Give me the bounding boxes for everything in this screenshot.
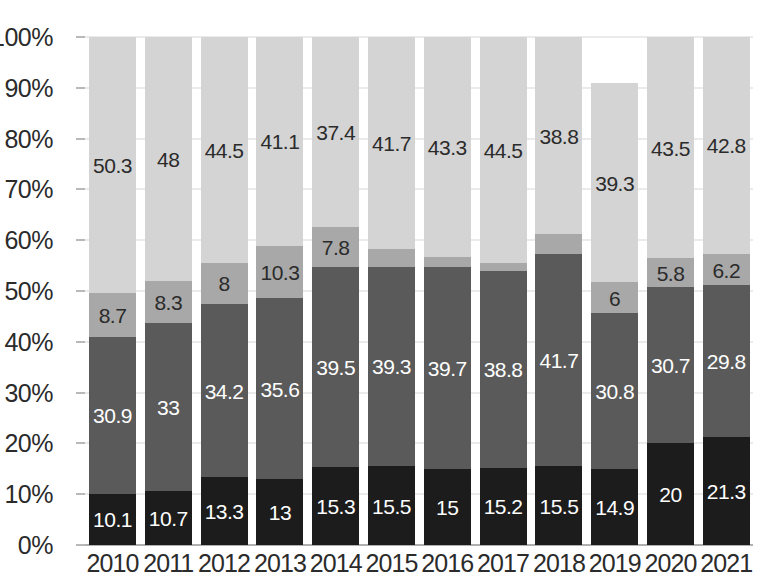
bar-value-label: 29.8 [703, 351, 750, 372]
bar-2015[interactable]: 15.539.33.541.7 [368, 37, 415, 545]
bar-value-label: 33 [145, 396, 192, 417]
bar-2018[interactable]: 15.541.7438.8 [535, 37, 582, 545]
bar-value-label: 14.9 [591, 497, 638, 518]
bar-segment-segment-4-2018[interactable]: 38.8 [535, 37, 582, 234]
bar-value-label: 41.7 [368, 132, 415, 153]
bar-segment-segment-3-2017[interactable]: 1.5 [480, 263, 527, 271]
bar-value-label: 10.3 [256, 261, 303, 282]
bar-value-label: 8.3 [145, 291, 192, 312]
bar-2012[interactable]: 13.334.2844.5 [201, 37, 248, 545]
bar-segment-segment-1-2017[interactable]: 15.2 [480, 468, 527, 545]
bar-segment-segment-4-2013[interactable]: 41.1 [256, 37, 303, 246]
bar-segment-segment-1-2012[interactable]: 13.3 [201, 477, 248, 545]
bar-value-label: 38.8 [480, 359, 527, 380]
bar-segment-segment-4-2012[interactable]: 44.5 [201, 37, 248, 263]
x-axis-label-2021: 2021 [696, 549, 756, 578]
bar-segment-segment-2-2010[interactable]: 30.9 [89, 337, 136, 494]
bar-segment-segment-1-2014[interactable]: 15.3 [312, 467, 359, 545]
bar-segment-segment-2-2014[interactable]: 39.5 [312, 267, 359, 468]
bar-segment-segment-3-2016[interactable]: 2 [424, 257, 471, 267]
bar-segment-segment-3-2013[interactable]: 10.3 [256, 246, 303, 298]
bar-2017[interactable]: 15.238.81.544.5 [480, 37, 527, 545]
bar-segment-segment-4-2021[interactable]: 42.8 [703, 37, 750, 254]
bar-segment-segment-1-2011[interactable]: 10.7 [145, 491, 192, 545]
bar-value-label: 39.3 [591, 172, 638, 193]
y-axis-tick-mark [76, 392, 85, 394]
bar-segment-segment-4-2014[interactable]: 37.4 [312, 37, 359, 227]
bar-segment-segment-3-2015[interactable]: 3.5 [368, 249, 415, 267]
bar-value-label: 15 [424, 496, 471, 517]
bar-segment-segment-2-2017[interactable]: 38.8 [480, 271, 527, 468]
bar-segment-segment-1-2015[interactable]: 15.5 [368, 466, 415, 545]
bar-2019[interactable]: 14.930.8639.3 [591, 37, 638, 545]
bar-2020[interactable]: 2030.75.843.5 [647, 37, 694, 545]
bar-segment-segment-2-2019[interactable]: 30.8 [591, 313, 638, 469]
bar-value-label: 41.1 [256, 131, 303, 152]
bar-segment-segment-2-2013[interactable]: 35.6 [256, 298, 303, 479]
bar-segment-segment-2-2021[interactable]: 29.8 [703, 285, 750, 436]
bar-segment-segment-3-2010[interactable]: 8.7 [89, 293, 136, 337]
bar-segment-segment-4-2016[interactable]: 43.3 [424, 37, 471, 257]
y-axis-tick-mark [76, 493, 85, 495]
bar-value-label: 21.3 [703, 480, 750, 501]
bar-segment-segment-3-2012[interactable]: 8 [201, 263, 248, 304]
bar-segment-segment-1-2020[interactable]: 20 [647, 443, 694, 545]
bar-segment-segment-2-2016[interactable]: 39.7 [424, 267, 471, 469]
bar-segment-segment-4-2010[interactable]: 50.3 [89, 37, 136, 293]
x-axis-label-2014: 2014 [306, 549, 366, 578]
bar-value-label: 6 [591, 287, 638, 308]
bar-2010[interactable]: 10.130.98.750.3 [89, 37, 136, 545]
bar-value-label: 43.5 [647, 137, 694, 158]
bar-segment-segment-4-2020[interactable]: 43.5 [647, 37, 694, 258]
bar-segment-segment-1-2021[interactable]: 21.3 [703, 437, 750, 545]
y-axis-tick-mark [76, 290, 85, 292]
bar-segment-segment-2-2020[interactable]: 30.7 [647, 287, 694, 443]
bar-value-label: 30.7 [647, 355, 694, 376]
bar-2011[interactable]: 10.7338.348 [145, 37, 192, 545]
bar-segment-segment-1-2013[interactable]: 13 [256, 479, 303, 545]
bar-value-label: 10.1 [89, 509, 136, 530]
bar-segment-segment-2-2018[interactable]: 41.7 [535, 254, 582, 466]
bar-segment-segment-1-2016[interactable]: 15 [424, 469, 471, 545]
y-axis-tick-mark [76, 544, 85, 546]
bar-segment-segment-1-2010[interactable]: 10.1 [89, 494, 136, 545]
stacked-bar-chart: 0%10%20%30%40%50%60%70%80%90%100% 10.130… [0, 0, 761, 583]
bar-value-label: 10.7 [145, 507, 192, 528]
x-axis-label-2012: 2012 [194, 549, 254, 578]
bar-segment-segment-3-2018[interactable]: 4 [535, 234, 582, 254]
bar-segment-segment-1-2018[interactable]: 15.5 [535, 466, 582, 545]
x-axis-label-2020: 2020 [641, 549, 701, 578]
bar-segment-segment-2-2012[interactable]: 34.2 [201, 304, 248, 478]
bar-segment-segment-3-2014[interactable]: 7.8 [312, 227, 359, 267]
bar-2013[interactable]: 1335.610.341.1 [256, 37, 303, 545]
y-axis-label: 90% [0, 73, 53, 102]
bar-2016[interactable]: 1539.7243.3 [424, 37, 471, 545]
y-axis-label: 40% [0, 327, 53, 356]
bar-segment-segment-3-2019[interactable]: 6 [591, 282, 638, 312]
bar-segment-segment-4-2017[interactable]: 44.5 [480, 37, 527, 263]
bar-segment-segment-3-2011[interactable]: 8.3 [145, 281, 192, 323]
bar-value-label: 7.8 [312, 236, 359, 257]
y-axis-tick-mark [76, 138, 85, 140]
bar-value-label: 15.5 [535, 495, 582, 516]
bar-segment-segment-4-2015[interactable]: 41.7 [368, 37, 415, 249]
x-axis-label-2015: 2015 [362, 549, 422, 578]
x-axis-label-2018: 2018 [529, 549, 589, 578]
bar-segment-segment-4-2011[interactable]: 48 [145, 37, 192, 281]
bar-segment-segment-2-2011[interactable]: 33 [145, 323, 192, 491]
bar-2014[interactable]: 15.339.57.837.4 [312, 37, 359, 545]
bar-segment-segment-3-2020[interactable]: 5.8 [647, 258, 694, 287]
y-axis-label: 0% [0, 531, 53, 560]
y-axis-tick-mark [76, 442, 85, 444]
bar-segment-segment-2-2015[interactable]: 39.3 [368, 267, 415, 467]
bar-segment-segment-1-2019[interactable]: 14.9 [591, 469, 638, 545]
bar-segment-segment-3-2021[interactable]: 6.2 [703, 254, 750, 285]
y-axis-label: 60% [0, 226, 53, 255]
y-axis-tick-mark [76, 239, 85, 241]
x-axis-label-2013: 2013 [250, 549, 310, 578]
bar-value-label: 39.7 [424, 357, 471, 378]
bar-segment-segment-4-2019[interactable]: 39.3 [591, 83, 638, 283]
bar-2021[interactable]: 21.329.86.242.8 [703, 37, 750, 545]
y-axis-tick-mark [76, 36, 85, 38]
bar-value-label: 37.4 [312, 122, 359, 143]
